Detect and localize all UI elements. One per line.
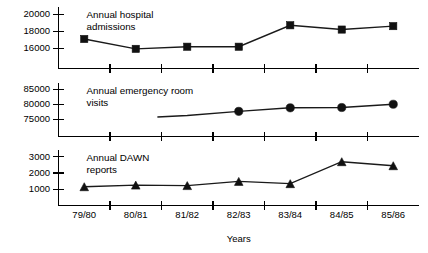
stacked-line-chart: 160001800020000Annual hospitaladmissions…	[0, 0, 428, 253]
chart-container: 160001800020000Annual hospitaladmissions…	[0, 0, 428, 253]
data-point-circle	[389, 100, 397, 108]
data-point-square	[81, 35, 88, 42]
x-tick-label-6: 85/86	[381, 209, 405, 220]
x-axis-title-text: Years	[227, 233, 251, 244]
data-point-square	[287, 22, 294, 29]
y-tick-label-1-1: 18000	[24, 25, 50, 36]
x-tick-label-1: 80/81	[124, 209, 148, 220]
y-tick-label-2-1: 80000	[24, 98, 50, 109]
y-tick-label-1-2: 20000	[24, 8, 50, 19]
y-tick-label-2-2: 85000	[24, 83, 50, 94]
data-point-circle	[286, 104, 294, 112]
y-tick-label-3-1: 2000	[29, 167, 50, 178]
data-point-square	[338, 26, 345, 33]
data-point-square	[235, 43, 242, 50]
y-tick-label-2-0: 75000	[24, 113, 50, 124]
series-label-line2-2: visits	[87, 97, 109, 108]
series-label-line1-3: Annual DAWN	[87, 152, 150, 163]
series-line-2	[157, 104, 393, 117]
y-tick-label-1-0: 16000	[24, 42, 50, 53]
series-label-line1-1: Annual hospital	[87, 9, 154, 20]
data-point-square	[390, 23, 397, 30]
y-tick-label-3-2: 3000	[29, 151, 50, 162]
series-label-line1-2: Annual emergency room	[87, 85, 194, 96]
series-label-line2-3: reports	[87, 164, 118, 175]
data-point-square	[184, 43, 191, 50]
series-label-line2-1: admissions	[87, 21, 136, 32]
data-point-circle	[235, 107, 243, 115]
x-tick-label-0: 79/80	[72, 209, 96, 220]
data-point-square	[132, 45, 139, 52]
x-tick-label-2: 81/82	[175, 209, 199, 220]
data-point-circle	[338, 103, 346, 111]
x-tick-label-5: 84/85	[330, 209, 354, 220]
x-tick-label-3: 82/83	[227, 209, 251, 220]
x-tick-label-4: 83/84	[278, 209, 302, 220]
y-tick-label-3-0: 1000	[29, 183, 50, 194]
